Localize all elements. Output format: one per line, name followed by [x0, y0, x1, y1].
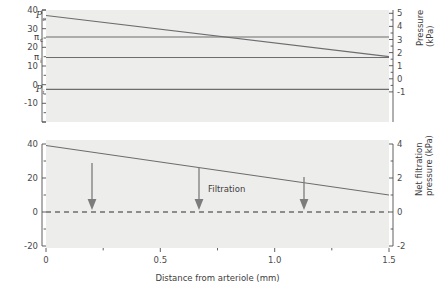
- netfiltration-ytick-20: 20: [27, 173, 38, 183]
- xtick-0p5: 0.5: [154, 255, 168, 265]
- pressure-kpa-tick-3: 3: [397, 35, 402, 45]
- svg-text:π: π: [34, 52, 39, 62]
- pressure-ytick-20: 20: [27, 42, 38, 52]
- pressure-axis-title-line1: Pressure: [415, 10, 425, 46]
- netfiltration-kpa-tick-neg2: -2: [397, 241, 405, 251]
- filtration-label: Filtration: [208, 184, 245, 194]
- netfiltration-axis-title-line2: pressure (kPa): [424, 135, 434, 196]
- pressure-kpa-tick-neg1: -1: [397, 87, 405, 97]
- pressure-plot-background: [46, 10, 389, 122]
- pressure-axis-title-line2: (kPa): [425, 25, 435, 47]
- net-filtration-panel: 40 20 0 -20 4 2 0 -2 Net filtration pres…: [24, 135, 434, 251]
- netfiltration-ytick-neg20: -20: [24, 241, 38, 251]
- pressure-kpa-tick-2: 2: [397, 48, 402, 58]
- pressure-kpa-tick-0: 0: [397, 74, 402, 84]
- svg-text:π: π: [34, 32, 39, 42]
- xtick-1p5: 1.5: [382, 255, 396, 265]
- netfiltration-kpa-tick-2: 2: [397, 173, 402, 183]
- x-axis-ticks: [46, 248, 389, 252]
- figure-svg: 40 30 20 10 0 -10 5 4 3: [0, 0, 448, 296]
- curve-label-Pi: P i: [35, 84, 45, 96]
- netfiltration-kpa-tick-0: 0: [397, 207, 402, 217]
- pressure-kpa-tick-5: 5: [397, 8, 402, 18]
- netfiltration-plot-background: [46, 140, 389, 248]
- curve-label-pi-i: π i: [34, 52, 42, 64]
- pressure-right-ticklabels: 5 4 3 2 1 0 -1: [397, 8, 405, 97]
- xtick-1p0: 1.0: [268, 255, 282, 265]
- pressure-left-axis: [42, 10, 46, 122]
- chart-root: 40 30 20 10 0 -10 5 4 3: [0, 0, 448, 296]
- pressure-right-axis: [389, 10, 393, 122]
- netfiltration-axis-title-line1: Net filtration: [414, 142, 424, 196]
- netfiltration-left-ticklabels: 40 20 0 -20: [24, 139, 38, 251]
- svg-text:c: c: [43, 15, 47, 22]
- netfiltration-ytick-40: 40: [27, 139, 38, 149]
- netfiltration-left-axis: [42, 144, 46, 246]
- netfiltration-right-axis: [389, 144, 393, 246]
- netfiltration-ytick-0: 0: [33, 207, 38, 217]
- x-axis-title: Distance from arteriole (mm): [155, 273, 279, 283]
- netfiltration-right-ticklabels: 4 2 0 -2: [397, 139, 405, 251]
- xtick-0: 0: [43, 255, 48, 265]
- svg-text:i: i: [43, 88, 45, 95]
- pressure-kpa-tick-4: 4: [397, 21, 402, 31]
- pressure-panel: 40 30 20 10 0 -10 5 4 3: [24, 5, 435, 122]
- pressure-ytick-neg10: -10: [24, 98, 38, 108]
- pressure-kpa-tick-1: 1: [397, 61, 402, 71]
- netfiltration-kpa-tick-4: 4: [397, 139, 402, 149]
- curve-label-Pc: P c: [35, 10, 47, 22]
- x-axis: 0 0.5 1.0 1.5 Distance from arteriole (m…: [43, 248, 395, 283]
- svg-text:c: c: [40, 36, 43, 43]
- x-axis-ticklabels: 0 0.5 1.0 1.5: [43, 255, 395, 265]
- pressure-ytick-10: 10: [27, 61, 38, 71]
